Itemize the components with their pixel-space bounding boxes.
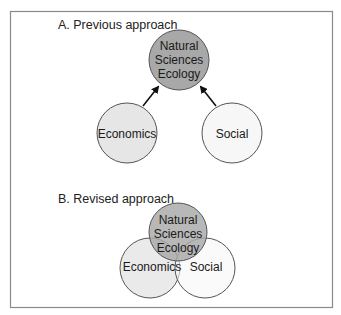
venn-natural-label-line3: Ecology <box>157 241 200 255</box>
venn-economics-label: Economics <box>123 260 182 274</box>
panel-b-title: B. Revised approach <box>58 192 174 206</box>
venn-social-label: Social <box>190 260 223 274</box>
economics-label: Economics <box>98 127 157 141</box>
diagram-canvas: A. Previous approach Natural Sciences Ec… <box>0 0 341 315</box>
natural-label-line2: Sciences <box>155 53 204 67</box>
venn-natural-label-line1: Natural <box>159 213 198 227</box>
panel-a-title: A. Previous approach <box>58 18 178 32</box>
natural-label-line1: Natural <box>160 39 199 53</box>
natural-label-line3: Ecology <box>158 67 201 81</box>
venn-natural-label-line2: Sciences <box>154 227 203 241</box>
social-label: Social <box>216 127 249 141</box>
